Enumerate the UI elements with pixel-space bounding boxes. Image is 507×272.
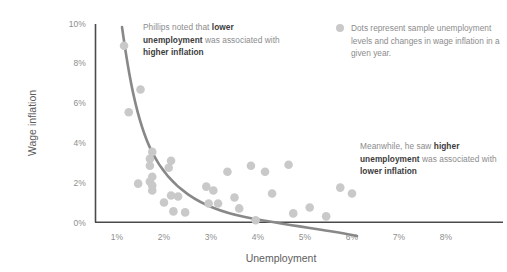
scatter-point xyxy=(181,208,190,217)
scatter-point xyxy=(268,189,277,198)
scatter-point xyxy=(164,163,173,172)
scatter-point xyxy=(120,42,129,51)
x-tick-label: 2% xyxy=(158,232,171,242)
scatter-point xyxy=(322,212,331,221)
scatter-point xyxy=(204,199,213,208)
scatter-point xyxy=(230,193,239,202)
annotation-text-plain: Meanwhile, he saw xyxy=(360,141,434,151)
y-tick-label: 10% xyxy=(69,19,87,29)
y-tick-label: 0% xyxy=(74,218,87,228)
x-axis-title: Unemployment xyxy=(246,252,317,264)
scatter-point xyxy=(223,167,232,176)
y-tick-label: 6% xyxy=(74,98,87,108)
legend-label: Dots represent sample unemployment level… xyxy=(351,22,501,60)
scatter-point xyxy=(174,192,183,201)
scatter-point xyxy=(214,199,223,208)
scatter-point xyxy=(261,167,270,176)
scatter-point xyxy=(251,216,260,225)
chart-legend: Dots represent sample unemployment level… xyxy=(336,22,501,60)
x-tick-label: 4% xyxy=(252,232,265,242)
y-axis-title: Wage inflation xyxy=(26,90,38,156)
y-axis-ticks: 10% 8% 6% 4% 2% 0% xyxy=(69,19,87,228)
scatter-point xyxy=(160,198,169,207)
scatter-point xyxy=(289,209,298,218)
y-tick-label: 4% xyxy=(74,138,87,148)
annotation-text-plain: Phillips noted that xyxy=(143,22,212,32)
scatter-point xyxy=(305,203,314,212)
phillips-curve-chart: 10% 8% 6% 4% 2% 0% 1% 2% 3% 4% 5% 6% 7% … xyxy=(0,0,507,272)
x-tick-label: 3% xyxy=(205,232,218,242)
annotation-text-plain: was associated with xyxy=(203,35,280,45)
x-tick-label: 5% xyxy=(299,232,312,242)
scatter-point xyxy=(247,161,256,170)
scatter-points xyxy=(120,42,357,225)
x-tick-label: 8% xyxy=(440,232,453,242)
scatter-point xyxy=(209,186,218,195)
annotation-text-bold: lower inflation xyxy=(360,166,417,176)
scatter-point xyxy=(146,161,155,170)
scatter-point xyxy=(235,204,244,213)
annotation-higher-unemployment: Meanwhile, he saw higher unemployment wa… xyxy=(360,140,500,178)
scatter-point xyxy=(136,85,145,94)
annotation-text-plain: was associated with xyxy=(420,154,497,164)
scatter-point xyxy=(348,189,357,198)
scatter-point xyxy=(284,160,293,169)
x-axis-ticks: 1% 2% 3% 4% 5% 6% 7% 8% xyxy=(111,232,453,242)
scatter-point xyxy=(134,179,143,188)
scatter-point xyxy=(336,183,345,192)
scatter-point xyxy=(124,108,133,117)
annotation-text-bold: higher inflation xyxy=(143,47,204,57)
y-tick-label: 8% xyxy=(74,58,87,68)
annotation-lower-unemployment: Phillips noted that lower unemployment w… xyxy=(143,21,293,59)
y-tick-label: 2% xyxy=(74,178,87,188)
x-tick-label: 1% xyxy=(111,232,124,242)
x-tick-label: 7% xyxy=(393,232,406,242)
legend-dot-icon xyxy=(336,24,344,32)
scatter-point xyxy=(169,207,178,216)
scatter-point xyxy=(148,186,157,195)
